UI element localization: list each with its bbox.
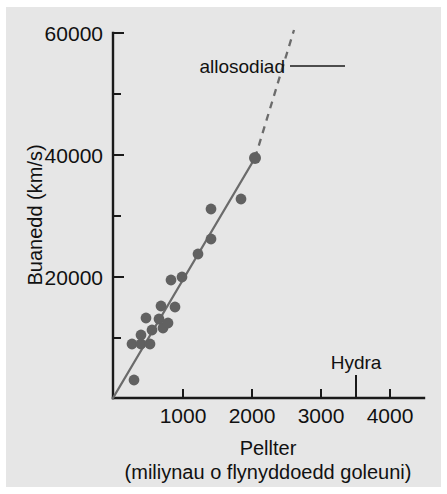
y-tick-label-40000: 40000 xyxy=(45,144,103,167)
data-point xyxy=(170,302,181,313)
x-tick-label-3000: 3000 xyxy=(298,404,345,427)
data-point xyxy=(249,152,261,164)
data-point xyxy=(145,339,156,350)
x-tick-label-1000: 1000 xyxy=(160,404,207,427)
y-tick-label-60000: 60000 xyxy=(45,22,103,45)
y-axis-title: Buanedd (km/s) xyxy=(24,144,46,285)
data-point xyxy=(141,313,152,324)
data-point xyxy=(147,325,158,336)
data-point xyxy=(206,234,217,245)
extrapolation-line xyxy=(255,30,294,158)
data-point xyxy=(136,330,147,341)
data-point xyxy=(177,272,188,283)
data-point xyxy=(156,301,167,312)
annotation-allosodiad: allosodiad xyxy=(199,56,285,77)
y-tick-label-20000: 20000 xyxy=(45,266,103,289)
x-axis-title-line2: (miliynau o flynyddoedd goleuni) xyxy=(125,461,412,483)
data-point xyxy=(236,194,247,205)
x-tick-label-2000: 2000 xyxy=(229,404,276,427)
data-point xyxy=(193,249,204,260)
data-point xyxy=(163,318,174,329)
data-point xyxy=(129,375,140,386)
chart-figure: 60000 40000 20000 1000 2000 3000 4000 Bu… xyxy=(0,0,447,494)
x-axis-title-line1: Pellter xyxy=(240,437,297,459)
x-tick-label-4000: 4000 xyxy=(367,404,414,427)
data-point xyxy=(206,204,217,215)
plot-area: 60000 40000 20000 1000 2000 3000 4000 Bu… xyxy=(0,0,447,494)
annotation-hydra: Hydra xyxy=(331,352,382,373)
data-point xyxy=(166,275,177,286)
